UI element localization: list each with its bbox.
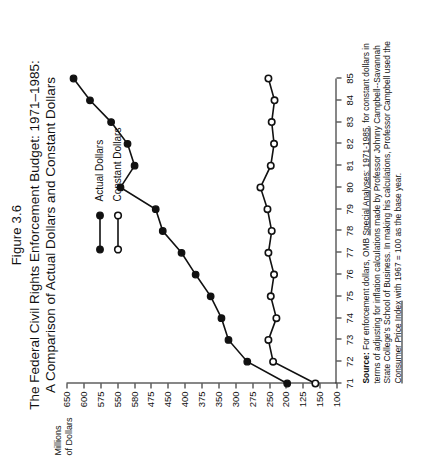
x-tick-label: 74	[343, 312, 354, 323]
figure-number: Figure 3.6	[8, 0, 23, 469]
data-point	[192, 271, 199, 278]
y-tick-label: 200	[280, 391, 291, 407]
y-tick-label: 600	[77, 391, 88, 407]
x-tick-label: 83	[343, 116, 354, 127]
y-tick-label: 275	[246, 391, 257, 407]
data-point	[267, 293, 273, 299]
y-axis-title-line1: Millions	[52, 417, 63, 455]
x-tick-label: 78	[343, 225, 354, 236]
legend-marker-open-circle	[110, 209, 125, 255]
x-tick-label: 79	[343, 203, 354, 214]
data-point	[264, 206, 270, 212]
y-tick-label: 150	[314, 391, 325, 407]
y-tick	[83, 383, 84, 388]
x-tick	[336, 99, 341, 100]
x-tick-label: 80	[343, 182, 354, 193]
x-tick	[336, 338, 341, 339]
x-tick	[336, 273, 341, 274]
x-tick-label: 82	[343, 138, 354, 149]
x-tick-label: 73	[343, 334, 354, 345]
x-tick	[336, 77, 341, 78]
data-point	[270, 271, 276, 277]
data-point	[265, 336, 271, 342]
y-tick	[66, 383, 67, 388]
y-tick	[218, 383, 219, 388]
data-point	[131, 162, 138, 169]
x-tick	[336, 360, 341, 361]
data-point	[257, 184, 263, 190]
legend-marker-filled-circle	[92, 209, 107, 255]
x-tick	[336, 295, 341, 296]
x-tick-label: 75	[343, 291, 354, 302]
y-tick-label: 300	[229, 391, 240, 407]
y-axis-title: Millions of Dollars	[52, 417, 73, 455]
x-tick	[336, 251, 341, 252]
x-tick-label: 85	[343, 73, 354, 84]
y-tick	[167, 383, 168, 388]
data-point	[159, 227, 166, 234]
x-tick-label: 84	[343, 95, 354, 106]
data-point	[267, 162, 273, 168]
y-axis-title-line2: of Dollars	[63, 417, 74, 455]
y-tick-label: 575	[94, 391, 105, 407]
y-tick	[134, 383, 135, 388]
y-tick-label: 250	[263, 391, 274, 407]
data-point	[270, 140, 276, 146]
figure-title-line2: A Comparison of Actual Dollars and Const…	[42, 0, 58, 469]
y-tick	[252, 383, 253, 388]
x-tick	[336, 230, 341, 231]
y-tick	[100, 383, 101, 388]
data-point	[268, 118, 274, 124]
y-tick	[117, 383, 118, 388]
data-point	[283, 380, 290, 387]
y-tick-label: 580	[128, 391, 139, 407]
x-tick	[336, 121, 341, 122]
figure-title: The Federal Civil Rights Enforcement Bud…	[26, 0, 58, 469]
x-tick-label: 77	[343, 247, 354, 258]
data-point	[218, 314, 225, 321]
y-tick	[184, 383, 185, 388]
y-tick	[336, 383, 337, 388]
source-note: Source: For enforcement dollars, OMB Spe…	[360, 31, 402, 383]
y-tick-label: 475	[145, 391, 156, 407]
legend-label: Actual Dollars	[93, 139, 104, 201]
x-tick	[336, 164, 341, 165]
data-point	[312, 380, 318, 386]
data-point	[225, 336, 232, 343]
y-tick-label: 350	[212, 391, 223, 407]
y-tick-label: 650	[61, 391, 72, 407]
x-tick	[336, 208, 341, 209]
y-tick-label: 400	[179, 391, 190, 407]
figure-page: Figure 3.6 The Federal Civil Rights Enfo…	[0, 0, 423, 469]
source-text-1: For enforcement dollars, OMB	[360, 235, 370, 352]
x-tick-label: 72	[343, 356, 354, 367]
data-point	[269, 358, 275, 364]
y-tick	[302, 383, 303, 388]
data-point	[271, 97, 277, 103]
y-tick-label: 375	[196, 391, 207, 407]
x-tick-label: 71	[343, 378, 354, 389]
x-tick-label: 81	[343, 160, 354, 171]
y-tick	[201, 383, 202, 388]
figure-title-line1: The Federal Civil Rights Enforcement Bud…	[26, 60, 41, 410]
source-label: Source:	[360, 352, 370, 383]
source-italic-2: Consumer Price Index	[392, 300, 402, 383]
y-tick-label: 550	[111, 391, 122, 407]
data-point	[70, 75, 77, 82]
data-point	[268, 227, 274, 233]
y-tick-label: 450	[162, 391, 173, 407]
x-tick	[336, 186, 341, 187]
x-tick	[336, 317, 341, 318]
data-point	[265, 249, 271, 255]
y-tick	[150, 383, 151, 388]
data-point	[273, 314, 279, 320]
data-point	[265, 75, 271, 81]
x-tick	[336, 142, 341, 143]
y-tick	[269, 383, 270, 388]
legend-label: Constant Dollars	[111, 127, 122, 201]
data-point	[152, 205, 159, 212]
x-tick	[336, 382, 341, 383]
source-text-3: with 1967 = 100 as the base year.	[392, 172, 402, 300]
y-tick-label: 100	[331, 391, 342, 407]
x-tick-label: 76	[343, 269, 354, 280]
